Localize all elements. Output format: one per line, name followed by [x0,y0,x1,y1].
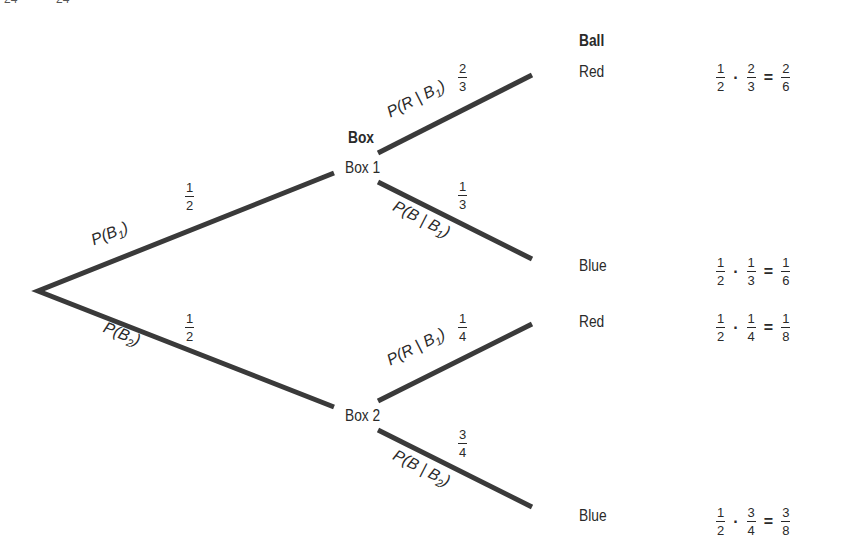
calc-box1-red: 12 · 23 = 26 [716,62,790,93]
equals-operator: = [764,69,773,87]
equals-operator: = [764,263,773,281]
ball-column-header: Ball [579,33,604,49]
prob-blue-given-b1: 13 [458,180,467,211]
times-operator: · [733,69,738,87]
equals-operator: = [764,513,773,531]
times-operator: · [733,513,738,531]
outcome-box2-red: Red [579,314,604,330]
prob-b1: 12 [185,181,194,212]
calc-box2-red: 12 · 14 = 18 [716,312,790,343]
node-box-2: Box 2 [345,408,380,424]
prob-r-given-b1: 23 [458,62,467,93]
outcome-box2-blue: Blue [579,508,607,524]
box-column-header: Box [348,130,374,146]
times-operator: · [733,319,738,337]
prob-r-given-b2: 14 [458,312,467,343]
outcome-box1-blue: Blue [579,258,607,274]
node-box-1: Box 1 [345,160,380,176]
prob-b2: 12 [185,312,194,343]
outcome-box1-red: Red [579,64,604,80]
calc-box1-blue: 12 · 13 = 16 [716,256,790,287]
times-operator: · [733,263,738,281]
equals-operator: = [764,319,773,337]
prob-blue-given-b2: 34 [458,428,467,459]
calc-box2-blue: 12 · 34 = 38 [716,506,790,537]
